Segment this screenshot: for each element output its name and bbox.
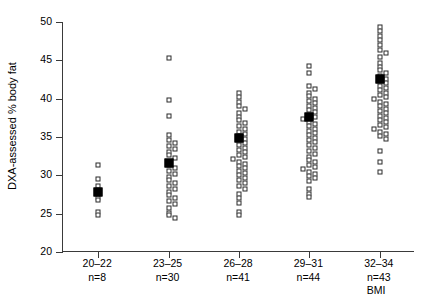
data-point [377, 55, 382, 60]
y-axis-tick-label: 50 [40, 15, 52, 27]
data-point [243, 175, 248, 180]
data-point [172, 187, 177, 192]
y-axis-title: DXA-assessed % body fat [0, 0, 24, 252]
data-point [96, 213, 101, 218]
x-axis-title: BMI [367, 284, 386, 296]
x-axis-group-count: n=43 [334, 270, 424, 284]
data-point [377, 159, 382, 164]
data-point [166, 193, 171, 198]
data-point [237, 177, 242, 182]
data-point [313, 145, 318, 150]
data-point [237, 124, 242, 129]
data-point [96, 162, 101, 167]
data-point [231, 157, 236, 162]
y-axis-tick-label: 35 [40, 130, 52, 142]
data-point [166, 205, 171, 210]
data-point [371, 97, 376, 102]
group-mean-marker [235, 133, 244, 142]
data-point [237, 152, 242, 157]
data-point [96, 197, 101, 202]
data-point [307, 84, 312, 89]
data-point [96, 177, 101, 182]
y-axis-tick: 20 [56, 252, 63, 253]
y-axis-tick-label: 25 [40, 207, 52, 219]
y-axis-tick-label: 30 [40, 168, 52, 180]
data-point [313, 176, 318, 181]
data-point [166, 138, 171, 143]
data-point [166, 56, 171, 61]
y-axis-tick: 45 [56, 60, 63, 61]
data-point [377, 134, 382, 139]
data-point [243, 154, 248, 159]
y-axis-tick: 30 [56, 175, 63, 176]
data-point [377, 92, 382, 97]
plot-area: 20253035404550 [62, 22, 414, 252]
data-point [237, 103, 242, 108]
data-point [166, 177, 171, 182]
data-point [383, 95, 388, 100]
data-point [313, 140, 318, 145]
data-point [377, 170, 382, 175]
data-point [307, 71, 312, 76]
data-point [307, 162, 312, 167]
data-point [377, 122, 382, 127]
group-mean-marker [305, 113, 314, 122]
x-axis-group-range: 32–34 [334, 256, 424, 270]
scatter-chart-figure: DXA-assessed % body fat 20253035404550 2… [0, 0, 425, 302]
data-point [166, 144, 171, 149]
data-point [166, 168, 171, 173]
y-axis-tick-label: 45 [40, 53, 52, 65]
data-point [307, 178, 312, 183]
data-point [243, 187, 248, 192]
data-point [313, 87, 318, 92]
y-axis-tick: 40 [56, 99, 63, 100]
data-point [243, 181, 248, 186]
data-point [166, 113, 171, 118]
y-axis-tick: 25 [56, 214, 63, 215]
data-point [166, 98, 171, 103]
data-point [237, 118, 242, 123]
data-point [166, 153, 171, 158]
data-point [237, 184, 242, 189]
data-point [172, 181, 177, 186]
data-point [166, 199, 171, 204]
y-axis-tick-label: 20 [40, 245, 52, 257]
data-point [172, 171, 177, 176]
x-axis-group-label: 32–34n=43 [334, 256, 424, 284]
data-point [243, 121, 248, 126]
group-mean-marker [375, 74, 384, 83]
y-axis-tick: 35 [56, 137, 63, 138]
data-point [172, 216, 177, 221]
data-point [166, 184, 171, 189]
data-point [377, 47, 382, 52]
data-point [313, 151, 318, 156]
data-point [383, 51, 388, 56]
data-point [243, 107, 248, 112]
group-mean-marker [164, 159, 173, 168]
data-point [307, 64, 312, 69]
y-axis-tick: 50 [56, 22, 63, 23]
data-point [313, 164, 318, 169]
data-point [237, 213, 242, 218]
data-point [377, 68, 382, 73]
data-point [307, 93, 312, 98]
data-point [172, 147, 177, 152]
data-point [383, 136, 388, 141]
data-point [307, 194, 312, 199]
data-point [166, 213, 171, 218]
data-point [307, 148, 312, 153]
data-point [377, 148, 382, 153]
data-point [383, 125, 388, 130]
data-point [172, 196, 177, 201]
group-mean-marker [94, 188, 103, 197]
data-point [172, 202, 177, 207]
data-point [371, 127, 376, 132]
data-point [237, 200, 242, 205]
data-point [301, 167, 306, 172]
data-point [307, 142, 312, 147]
y-axis-tick-label: 40 [40, 92, 52, 104]
data-point [172, 141, 177, 146]
